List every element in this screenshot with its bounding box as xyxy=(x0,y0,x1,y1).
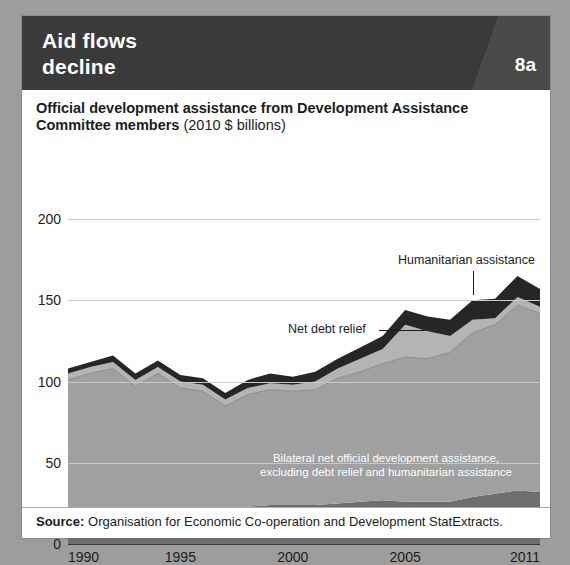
source-label: Source: xyxy=(36,514,84,529)
chart-subtitle-units: (2010 $ billions) xyxy=(179,117,285,133)
callout-net-debt-relief: Net debt relief xyxy=(288,322,366,336)
x-axis-line xyxy=(68,544,540,546)
x-tick-2000: 2000 xyxy=(277,549,308,565)
source-note: Source: Organisation for Economic Co-ope… xyxy=(22,507,550,538)
leader-line-debt-relief xyxy=(379,330,425,331)
y-tick-50: 50 xyxy=(45,455,61,471)
y-tick-100: 100 xyxy=(38,374,61,390)
x-tick-1990: 1990 xyxy=(68,549,99,565)
chart-subtitle: Official development assistance from Dev… xyxy=(36,100,536,134)
figure-number-badge: 8a xyxy=(515,54,536,76)
gridline-150 xyxy=(68,300,540,301)
figure-header: Aid flows decline 8a xyxy=(22,16,550,90)
plot-area: 050100150200 19901995200020052011 Bilate… xyxy=(68,219,540,544)
x-tick-2011: 2011 xyxy=(510,549,540,565)
y-tick-0: 0 xyxy=(53,536,61,552)
figure-card: Aid flows decline 8a Official developmen… xyxy=(22,16,550,538)
y-tick-200: 200 xyxy=(38,211,61,227)
x-tick-2005: 2005 xyxy=(390,549,421,565)
source-text: Organisation for Economic Co-operation a… xyxy=(84,514,502,529)
leader-line-humanitarian xyxy=(473,271,474,295)
callout-humanitarian-assistance: Humanitarian assistance xyxy=(398,253,535,267)
gridline-100 xyxy=(68,382,540,383)
figure-body: Official development assistance from Dev… xyxy=(22,90,550,538)
series-label-bilateral: Bilateral net official development assis… xyxy=(236,451,536,479)
gridline-200 xyxy=(68,219,540,220)
x-tick-1995: 1995 xyxy=(165,549,196,565)
figure-title: Aid flows decline xyxy=(42,28,137,80)
header-wedge-shape xyxy=(472,16,550,90)
y-tick-150: 150 xyxy=(38,292,61,308)
